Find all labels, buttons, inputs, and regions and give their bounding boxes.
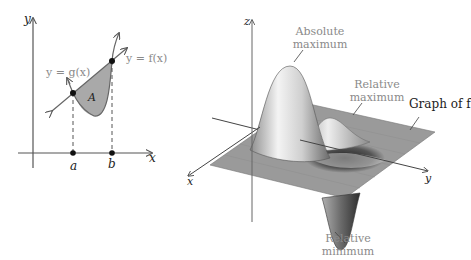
region-a-label: A (88, 92, 96, 103)
relative-max-label: Relative maximum (345, 79, 409, 103)
z-axis-label: z (244, 16, 250, 27)
x-axis-3d-label: x (187, 176, 193, 187)
point-b-label: b (108, 158, 116, 170)
relative-min-label: Relative minimum (316, 233, 380, 257)
area-between-curves-diagram (18, 18, 152, 168)
x-axis-label: x (149, 152, 156, 164)
absolute-max-leader (294, 50, 303, 62)
y-axis-label: y (24, 13, 31, 25)
intersection-point-a (70, 90, 76, 96)
curve-f-label: y = f(x) (126, 53, 167, 64)
intersection-point-b (109, 58, 115, 64)
point-b (109, 150, 115, 156)
point-a-label: a (70, 160, 77, 172)
curve-g-label: y = g(x) (46, 67, 90, 78)
surface-extrema-diagram (188, 20, 435, 250)
point-a (70, 150, 76, 156)
y-axis-3d-label: y (425, 173, 431, 184)
graph-of-f-label: Graph of f (409, 98, 471, 110)
relative-max-leader (353, 103, 362, 115)
absolute-max-label: Absolute maximum (288, 26, 352, 50)
